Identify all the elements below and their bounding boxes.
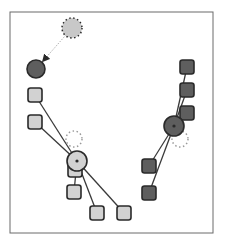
cluster-links — [35, 67, 187, 213]
centroids — [67, 116, 184, 171]
dark-data-point — [142, 159, 156, 173]
light-data-point — [28, 115, 42, 129]
dark-data-point — [180, 83, 194, 97]
light-data-point — [90, 206, 104, 220]
centroid-move-arrow — [43, 36, 65, 61]
centroid-center-dot — [75, 159, 78, 162]
dark-data-point — [180, 106, 194, 120]
dark-data-point — [142, 186, 156, 200]
centroid-center-dot — [172, 124, 175, 127]
light-data-point — [28, 88, 42, 102]
clustering-diagram — [0, 0, 225, 242]
previous-centroid-marker — [66, 131, 82, 147]
initial-centroid-marker — [62, 18, 82, 38]
light-data-point — [67, 185, 81, 199]
moving-centroid — [27, 18, 82, 78]
light-data-point — [117, 206, 131, 220]
dark-data-point — [180, 60, 194, 74]
moved-centroid — [27, 60, 45, 78]
